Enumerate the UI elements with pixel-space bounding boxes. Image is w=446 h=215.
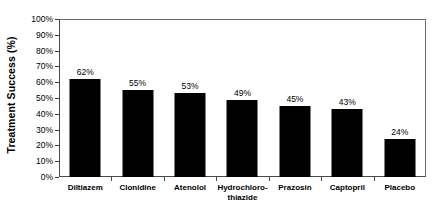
y-axis-tick-label: 40% [20,109,53,119]
x-axis-tick-mark [321,177,322,181]
y-axis-tick-label: 100% [20,14,53,24]
x-axis-tick-label-line: Captopril [330,183,365,192]
x-axis-tick-mark [164,177,165,181]
x-axis-tick-label: Atenolol [164,183,216,193]
y-axis-tick-mark [55,51,59,52]
bar-slot: 55% [111,19,163,177]
bar [227,100,258,177]
x-axis-tick-labels: DiltiazemClonidineAtenololHydrochloro-th… [59,183,426,213]
bar [175,93,206,177]
bar-slot: 49% [216,19,268,177]
bar-value-label: 24% [391,127,408,137]
y-axis-tick-mark [55,130,59,131]
x-axis-tick-label-line: Placebo [384,183,415,192]
bar [122,90,153,177]
bar [332,109,363,177]
bar-chart: Treatment Success (%) 100%90%80%70%60%50… [0,0,446,215]
y-axis-tick-mark [55,66,59,67]
y-axis-title: Treatment Success (%) [0,0,22,190]
y-axis-tick-mark [55,19,59,20]
x-axis-tick-label: Prazosin [269,183,321,193]
y-axis-tick-mark [55,145,59,146]
x-axis-tick-mark [269,177,270,181]
y-axis-tick-label: 60% [20,77,53,87]
x-axis-tick-mark [374,177,375,181]
x-axis-tick-mark [216,177,217,181]
bar-slot: 62% [59,19,111,177]
y-axis-tick-mark [55,177,59,178]
y-axis-tick-label: 80% [20,46,53,56]
bar-value-label: 43% [339,97,356,107]
x-axis-tick-label: Captopril [321,183,373,193]
bar-slot: 53% [164,19,216,177]
x-axis-tick-label-line: Clonidine [119,183,155,192]
bar [384,139,415,177]
bar-value-label: 55% [129,78,146,88]
x-axis-tick-label: Placebo [374,183,426,193]
bar [70,79,101,177]
y-axis-tick-label: 30% [20,125,53,135]
x-axis-tick-label-line: Atenolol [174,183,206,192]
bar-value-label: 62% [77,67,94,77]
bar-value-label: 53% [182,81,199,91]
y-axis-tick-mark [55,35,59,36]
bar-slot: 43% [321,19,373,177]
y-axis-tick-mark [55,98,59,99]
x-axis-tick-label-line: Hydrochloro- [217,183,267,192]
y-axis-tick-mark [55,82,59,83]
y-axis-tick-label: 0% [20,172,53,182]
y-axis-tick-label: 20% [20,140,53,150]
y-axis-tick-labels: 100%90%80%70%60%50%40%30%20%10%0% [20,19,53,177]
x-axis-tick-label: Hydrochloro-thiazide [216,183,268,203]
bar-slot: 24% [374,19,426,177]
y-axis-tick-label: 90% [20,30,53,40]
y-axis-title-text: Treatment Success (%) [5,36,17,153]
bar [279,106,310,177]
y-axis-tick-label: 70% [20,61,53,71]
x-axis-tick-label: Diltiazem [59,183,111,193]
x-axis-tick-label-line: Prazosin [278,183,311,192]
x-axis-tick-label: Clonidine [111,183,163,193]
x-axis-tick-label-line: thiazide [216,193,268,203]
x-axis-tick-mark [111,177,112,181]
y-axis-tick-mark [55,161,59,162]
bars-layer: 62%55%53%49%45%43%24% [59,19,426,177]
bar-value-label: 45% [286,94,303,104]
x-axis-tick-label-line: Diltiazem [68,183,103,192]
bar-value-label: 49% [234,88,251,98]
y-axis-tick-label: 50% [20,93,53,103]
y-axis-tick-label: 10% [20,156,53,166]
bar-slot: 45% [269,19,321,177]
y-axis-tick-mark [55,114,59,115]
